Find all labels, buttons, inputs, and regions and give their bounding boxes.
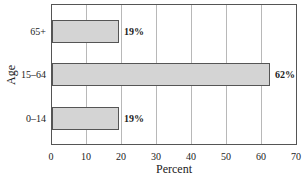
- bar-label-15-64: 62%: [275, 69, 295, 81]
- category-label-65-plus: 65+: [30, 26, 46, 38]
- bar-label-0-14: 19%: [124, 113, 144, 125]
- bar-15-64: [52, 63, 270, 86]
- bar-label-65-plus: 19%: [124, 26, 144, 38]
- category-label-0-14: 0–14: [26, 113, 46, 125]
- x-axis-label: Percent: [51, 162, 297, 176]
- plot-area: 19% 62% 19%: [51, 4, 297, 145]
- bar-65-plus: [52, 20, 119, 43]
- bar-0-14: [52, 107, 119, 130]
- y-axis-label: Age: [4, 60, 18, 90]
- category-label-15-64: 15–64: [21, 69, 46, 81]
